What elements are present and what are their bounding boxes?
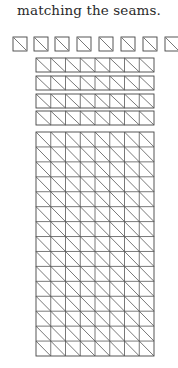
diagonal-seam [36,177,51,192]
diagonal-seam [125,162,140,177]
diagonal-seam [66,296,81,311]
diagonal-seam [36,192,51,207]
diagonal-seam [51,111,66,125]
diagonal-seam [110,222,125,237]
diagonal-seam [139,341,154,356]
strip [36,94,154,108]
diagonal-seam [80,341,95,356]
diagonal-seam [51,76,66,90]
diagonal-seam [139,326,154,341]
diagonal-seam [66,281,81,296]
diagonal-seam [95,207,110,222]
diagonal-seam [125,341,140,356]
assembled-quilt-grid [36,132,154,356]
diagonal-seam [139,94,154,108]
diagonal-seam [51,251,66,266]
diagonal-seam [100,38,112,50]
half-square-triangle-diagram [0,0,178,368]
diagonal-seam [51,222,66,237]
diagonal-seam [110,266,125,281]
diagonal-seam [51,326,66,341]
diagonal-seam [95,177,110,192]
diagonal-seam [110,237,125,252]
diagonal-seam [80,111,95,125]
diagonal-seam [139,222,154,237]
diagonal-seam [80,132,95,147]
diagonal-seam [80,222,95,237]
diagonal-seam [51,341,66,356]
diagonal-seam [125,222,140,237]
diagonal-seam [125,266,140,281]
diagonal-seam [139,251,154,266]
diagonal-seam [110,207,125,222]
diagonal-seam [95,94,110,108]
diagonal-seam [51,207,66,222]
diagonal-seam [51,177,66,192]
diagonal-seam [51,237,66,252]
diagonal-seam [110,326,125,341]
diagonal-seam [95,147,110,162]
diagonal-seam [125,296,140,311]
diagonal-seam [139,207,154,222]
diagonal-seam [35,38,47,50]
diagonal-seam [110,132,125,147]
diagonal-seam [80,281,95,296]
diagonal-seam [95,266,110,281]
diagonal-seam [14,38,26,50]
diagonal-seam [36,132,51,147]
diagonal-seam [110,147,125,162]
strip [36,111,154,125]
diagonal-seam [139,296,154,311]
diagonal-seam [139,281,154,296]
diagonal-seam [36,147,51,162]
diagonal-seam [139,192,154,207]
diagonal-seam [66,132,81,147]
diagonal-seam [36,311,51,326]
diagonal-seam [95,281,110,296]
half-square-triangle-block [143,37,157,51]
diagonal-seam [51,281,66,296]
diagonal-seam [125,94,140,108]
diagonal-seam [80,326,95,341]
diagonal-seam [110,192,125,207]
diagonal-seam [66,222,81,237]
diagonal-seam [36,94,51,108]
diagonal-seam [66,326,81,341]
diagonal-seam [51,94,66,108]
diagonal-seam [110,341,125,356]
diagonal-seam [95,296,110,311]
diagonal-seam [80,311,95,326]
diagonal-seam [80,58,95,72]
diagonal-seam [51,266,66,281]
diagonal-seam [66,266,81,281]
diagonal-seam [125,326,140,341]
half-square-triangle-block [13,37,27,51]
diagonal-seam [80,207,95,222]
diagonal-seam [80,76,95,90]
diagonal-seam [139,237,154,252]
diagonal-seam [95,222,110,237]
diagonal-seam [36,162,51,177]
diagonal-seam [166,38,178,50]
diagonal-seam [36,58,51,72]
strip [36,58,154,72]
diagonal-seam [95,58,110,72]
diagonal-seam [95,132,110,147]
diagonal-seam [125,237,140,252]
diagonal-seam [139,266,154,281]
diagonal-seam [66,192,81,207]
diagonal-seam [66,341,81,356]
diagonal-seam [139,132,154,147]
diagonal-seam [66,147,81,162]
diagonal-seam [36,222,51,237]
diagonal-seam [95,326,110,341]
diagonal-seam [80,237,95,252]
diagonal-seam [78,38,90,50]
diagonal-seam [110,251,125,266]
diagonal-seam [80,192,95,207]
diagonal-seam [125,147,140,162]
diagonal-seam [125,177,140,192]
diagonal-seam [110,76,125,90]
diagonal-seam [125,251,140,266]
diagonal-seam [95,76,110,90]
